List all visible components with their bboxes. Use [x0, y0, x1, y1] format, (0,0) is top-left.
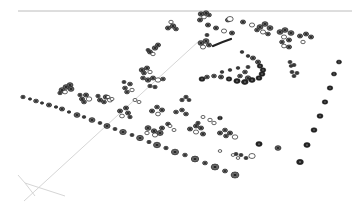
- shrub-icon: [196, 121, 200, 124]
- east-tree-icon: [322, 100, 328, 104]
- shrub-icon: [297, 34, 302, 38]
- hedge-shrub-icon: [74, 113, 80, 118]
- shrub-icon: [224, 134, 229, 138]
- 3d-perspective-viewport[interactable]: [0, 0, 353, 203]
- shrub-icon: [262, 22, 268, 27]
- cluster-center-7: [174, 108, 189, 116]
- shrub-clusters: [58, 11, 314, 160]
- shrub-icon: [58, 91, 62, 94]
- shrub-icon: [130, 88, 134, 91]
- open-shrub-icon: [168, 124, 172, 127]
- open-shrub-icon: [133, 98, 137, 101]
- ucs-axis-line-0: [24, 40, 200, 201]
- hedge-shrub-icon: [137, 135, 144, 140]
- shrub-icon: [249, 23, 254, 27]
- open-shrub-icon: [231, 154, 235, 157]
- shrub-icon: [123, 106, 128, 110]
- shrub-icon: [286, 38, 291, 42]
- shrub-icon: [240, 20, 245, 24]
- shrub-icon: [280, 40, 285, 44]
- shrub-icon: [292, 74, 296, 77]
- hedge-shrub-icon: [154, 142, 161, 147]
- east-tree-row: [297, 60, 342, 165]
- shrub-icon: [207, 13, 212, 17]
- shrub-icon: [180, 108, 185, 112]
- shrub-icon: [86, 97, 92, 101]
- shrub-icon: [102, 100, 107, 104]
- crescent-planting-bed: [199, 51, 266, 85]
- landscape-plan-perspective-view[interactable]: [0, 0, 353, 203]
- open-shrub-icon: [137, 100, 141, 103]
- cluster-ne-3: [297, 32, 313, 44]
- shrub-icon: [184, 95, 188, 98]
- bed-shrub-icon: [257, 64, 263, 68]
- bed-shrub-icon: [205, 75, 210, 79]
- curved-path-segment: [213, 39, 231, 46]
- shrub-icon: [155, 105, 160, 109]
- bed-shrub-icon: [255, 60, 260, 64]
- cluster-center-3: [180, 95, 191, 101]
- bed-shrub-icon: [256, 76, 262, 81]
- cluster-mid-3: [139, 66, 152, 75]
- shrub-icon: [155, 78, 161, 82]
- bed-shrub-icon: [242, 80, 248, 85]
- bed-shrub-icon: [234, 79, 240, 84]
- hedge-shrub-icon: [223, 169, 228, 173]
- cluster-center-2: [149, 105, 164, 116]
- shrub-icon: [295, 71, 299, 74]
- shrub-icon: [187, 98, 191, 101]
- shrub-icon: [125, 90, 130, 94]
- shrub-icon: [145, 126, 151, 131]
- shrub-icon: [148, 84, 152, 87]
- cluster-nw-1: [58, 83, 74, 95]
- cluster-upper-2: [165, 20, 178, 31]
- shrub-icon: [288, 31, 294, 36]
- shrub-icon: [227, 131, 232, 135]
- shrub-icon: [117, 109, 122, 113]
- shrub-icon: [120, 114, 125, 118]
- cluster-nw-2: [78, 93, 92, 104]
- bed-shrub-icon: [249, 78, 255, 83]
- shrub-icon: [125, 111, 130, 115]
- hedge-shrub-icon: [203, 161, 208, 165]
- shrub-icon: [149, 109, 154, 113]
- shrub-icon: [150, 76, 155, 80]
- cluster-center-5: [187, 121, 205, 136]
- open-shrub-icon: [110, 97, 114, 100]
- hedge-shrub-icon: [89, 118, 95, 123]
- hedge-shrub-icon: [67, 111, 70, 114]
- bed-shrub-icon: [246, 65, 250, 68]
- cluster-ne-2: [277, 28, 294, 49]
- shrub-icon: [289, 65, 293, 68]
- shrub-icon: [238, 74, 243, 78]
- hedge-shrub-icon: [171, 149, 178, 155]
- guide-lines: [18, 11, 352, 201]
- cluster-ne-small: [288, 60, 296, 67]
- hedge-shrub-icon: [40, 102, 43, 104]
- cluster-left-of-arc: [198, 33, 212, 49]
- hedge-row-front: [21, 95, 239, 178]
- cluster-ne-1: [255, 22, 273, 36]
- open-shrub-icon: [201, 115, 205, 118]
- open-circle-chain-icon: [218, 150, 222, 153]
- shrub-icon: [260, 30, 265, 34]
- shrub-icon: [153, 85, 157, 88]
- shrub-icon: [200, 45, 205, 49]
- hedge-shrub-icon: [54, 106, 57, 109]
- shrub-icon: [123, 86, 128, 90]
- shrub-icon: [187, 127, 192, 131]
- shrub-icon: [78, 93, 82, 96]
- east-tree-icon: [311, 128, 317, 133]
- shrub-icon: [161, 77, 166, 81]
- shrub-icon: [184, 112, 189, 116]
- east-tree-icon: [304, 143, 310, 148]
- shrub-icon: [290, 70, 294, 73]
- hedge-shrub-icon: [211, 164, 219, 170]
- ucs-axis-line-1: [18, 175, 25, 183]
- shrub-icon: [223, 128, 228, 132]
- shrub-icon: [159, 108, 164, 112]
- shrub-icon: [203, 39, 209, 44]
- hedge-shrub-icon: [59, 107, 64, 111]
- hedge-shrub-icon: [120, 129, 127, 134]
- shrub-icon: [288, 60, 292, 63]
